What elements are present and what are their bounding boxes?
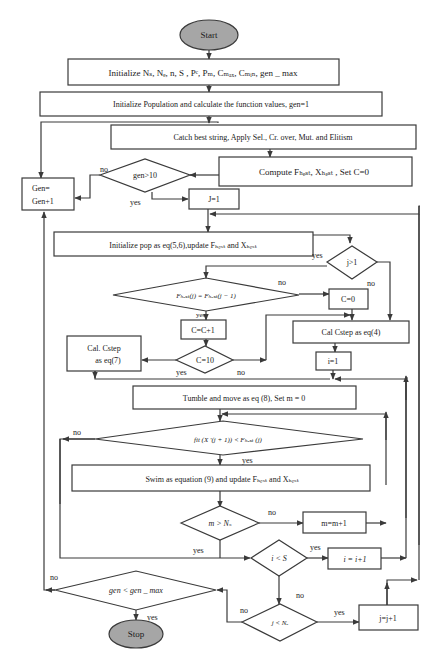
j-increment-box: j=j+1 bbox=[359, 605, 418, 630]
svg-text:Cal. Cstep: Cal. Cstep bbox=[87, 344, 120, 353]
svg-text:C=C+1: C=C+1 bbox=[191, 326, 215, 335]
svg-text:no: no bbox=[268, 508, 276, 517]
m-increment-box: m=m+1 bbox=[303, 512, 366, 533]
svg-text:Start: Start bbox=[201, 30, 218, 40]
svg-text:i < S: i < S bbox=[271, 554, 287, 563]
svg-text:yes: yes bbox=[147, 613, 158, 622]
svg-text:Cal Cstep as eq(4): Cal Cstep as eq(4) bbox=[322, 328, 381, 337]
svg-text:Swim as equation (9) and updat: Swim as equation (9) and update Fₕₑₛₜ an… bbox=[145, 475, 298, 484]
svg-text:Compute Fₕₑₛₜ, Xₕₑₛₜ , Set C=0: Compute Fₕₑₛₜ, Xₕₑₛₜ , Set C=0 bbox=[259, 167, 370, 177]
svg-text:no: no bbox=[367, 279, 375, 288]
start-terminal: Start bbox=[180, 20, 238, 50]
svg-text:Stop: Stop bbox=[128, 629, 145, 639]
svg-text:yes: yes bbox=[312, 251, 323, 260]
j-gt-1-decision: j>1 bbox=[327, 246, 377, 279]
svg-text:m > Nₛ: m > Nₛ bbox=[208, 519, 232, 528]
stop-terminal: Stop bbox=[109, 620, 163, 648]
flowchart: Start Initialize Nₛ, Nₑ, n, S , Pᶜ, Pₘ, … bbox=[0, 0, 439, 669]
svg-text:as eq(7): as eq(7) bbox=[95, 356, 121, 365]
svg-text:gen>10: gen>10 bbox=[133, 171, 157, 180]
init-params-box: Initialize Nₛ, Nₑ, n, S , Pᶜ, Pₘ, Cₘₐₓ, … bbox=[68, 59, 339, 85]
svg-text:yes: yes bbox=[130, 198, 141, 207]
j-lt-ne-decision: j < Nₑ bbox=[242, 604, 317, 641]
gen-lt-genmax-decision: gen < gen _ max bbox=[55, 571, 216, 610]
svg-text:m=m+1: m=m+1 bbox=[321, 519, 346, 528]
svg-text:i=1: i=1 bbox=[328, 357, 339, 366]
gen-gt-10-decision: gen>10 bbox=[100, 159, 190, 192]
svg-text:Gen+1: Gen+1 bbox=[32, 197, 54, 206]
svg-text:no: no bbox=[278, 278, 286, 287]
svg-text:C=0: C=0 bbox=[341, 295, 355, 304]
svg-text:fit (X ′(j + 1)) < Fₕₑₛₜ (j): fit (X ′(j + 1)) < Fₕₑₛₜ (j) bbox=[194, 436, 263, 444]
j-init-box: J=1 bbox=[189, 189, 239, 209]
svg-text:yes: yes bbox=[193, 546, 204, 555]
svg-text:j=j+1: j=j+1 bbox=[378, 614, 396, 623]
svg-text:yes: yes bbox=[334, 608, 345, 617]
svg-text:Gen=: Gen= bbox=[32, 184, 50, 193]
init-pop-eq-box: Initialize pop as eq(5,6),update Fₕₑₛₜ a… bbox=[54, 232, 313, 256]
svg-text:yes: yes bbox=[242, 456, 253, 465]
svg-text:i = i+1: i = i+1 bbox=[343, 555, 366, 564]
svg-text:yes: yes bbox=[176, 368, 187, 377]
fitness-check-decision: fit (X ′(j + 1)) < Fₕₑₛₜ (j) bbox=[95, 421, 363, 455]
compute-box: Compute Fₕₑₛₜ, Xₕₑₛₜ , Set C=0 bbox=[219, 157, 412, 186]
svg-text:no: no bbox=[240, 606, 248, 615]
swim-box: Swim as equation (9) and update Fₕₑₛₜ an… bbox=[72, 465, 370, 491]
i-lt-s-decision: i < S bbox=[251, 540, 307, 576]
svg-text:gen < gen _ max: gen < gen _ max bbox=[109, 586, 163, 595]
svg-text:Tumble and move as eq (8), Set: Tumble and move as eq (8), Set m = 0 bbox=[183, 394, 305, 403]
svg-text:no: no bbox=[296, 591, 304, 600]
svg-text:Initialize pop as eq(5,6),upda: Initialize pop as eq(5,6),update Fₕₑₛₜ a… bbox=[109, 241, 256, 250]
catch-best-box: Catch best string, Apply Sel., Cr. over,… bbox=[111, 125, 416, 149]
svg-text:Fₕₑₛₜ(j) = Fₕₑₛₜ(j − 1): Fₕₑₛₜ(j) = Fₕₑₛₜ(j − 1) bbox=[175, 292, 236, 300]
cal-cstep-eq4-box: Cal Cstep as eq(4) bbox=[293, 321, 409, 343]
svg-text:Catch best string, Apply Sel.,: Catch best string, Apply Sel., Cr. over,… bbox=[173, 133, 353, 142]
svg-text:no: no bbox=[50, 573, 58, 582]
tumble-box: Tumble and move as eq (8), Set m = 0 bbox=[133, 386, 356, 409]
svg-text:no: no bbox=[73, 428, 81, 437]
svg-text:J=1: J=1 bbox=[208, 195, 220, 204]
fbest-equal-decision: Fₕₑₛₜ(j) = Fₕₑₛₜ(j − 1) bbox=[113, 278, 299, 311]
i-increment-box: i = i+1 bbox=[328, 548, 381, 569]
cal-cstep-eq7-box: Cal. Cstep as eq(7) bbox=[67, 336, 141, 371]
svg-text:no: no bbox=[100, 165, 108, 174]
m-gt-ns-decision: m > Nₛ bbox=[181, 506, 259, 540]
svg-text:no: no bbox=[237, 368, 245, 377]
svg-text:Initialize Population and calc: Initialize Population and calculate the … bbox=[113, 100, 309, 109]
svg-text:yes: yes bbox=[196, 311, 206, 319]
svg-text:j>1: j>1 bbox=[346, 258, 358, 267]
c-increment-box: C=C+1 bbox=[181, 320, 226, 339]
gen-increment-box: Gen= Gen+1 bbox=[22, 178, 74, 210]
svg-text:yes: yes bbox=[310, 543, 321, 552]
c-zero-box: C=0 bbox=[329, 289, 368, 309]
svg-text:Initialize Nₛ, Nₑ, n, S , Pᶜ,: Initialize Nₛ, Nₑ, n, S , Pᶜ, Pₘ, Cₘₐₓ, … bbox=[108, 68, 298, 78]
svg-text:j < Nₑ: j < Nₑ bbox=[271, 619, 289, 627]
init-population-box: Initialize Population and calculate the … bbox=[40, 92, 382, 116]
i-init-box: i=1 bbox=[316, 352, 351, 370]
svg-text:C=10: C=10 bbox=[196, 356, 214, 365]
